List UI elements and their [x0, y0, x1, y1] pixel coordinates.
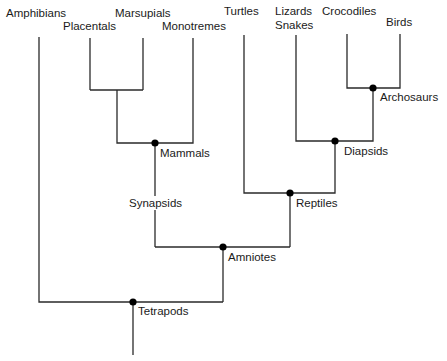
taxon-snakes: Snakes	[275, 19, 314, 31]
taxon-birds: Birds	[386, 16, 412, 28]
clade-diapsids: Diapsids	[344, 145, 388, 157]
node-diapsids	[331, 137, 338, 144]
clade-amniotes: Amniotes	[228, 251, 276, 263]
taxon-monotremes: Monotremes	[162, 20, 226, 32]
clade-archosaurs: Archosaurs	[380, 91, 438, 103]
clade-reptiles: Reptiles	[296, 197, 338, 209]
branch-lizards-snakes	[296, 35, 335, 141]
taxon-lizards: Lizards	[275, 5, 312, 17]
branch-archosaurs	[335, 88, 373, 141]
node-mammals	[151, 139, 158, 146]
node-amniotes	[219, 243, 226, 250]
branch-turtles	[244, 35, 290, 193]
clade-mammals: Mammals	[160, 147, 210, 159]
node-reptiles	[286, 189, 293, 196]
taxon-turtles: Turtles	[224, 5, 259, 17]
clade-synapsids: Synapsids	[129, 197, 182, 209]
node-tetrapods	[129, 298, 136, 305]
phylogenetic-tree: Amphibians Placentals Marsupials Monotre…	[0, 0, 447, 361]
branch-therians	[117, 90, 155, 143]
reptiles-subtree	[244, 34, 400, 247]
taxon-amphibians: Amphibians	[6, 7, 66, 19]
branch-amphibians	[39, 37, 223, 302]
branch-monotremes	[155, 38, 193, 143]
branch-crocodiles	[347, 34, 373, 88]
taxon-marsupials: Marsupials	[115, 7, 171, 19]
clade-tetrapods: Tetrapods	[138, 305, 189, 317]
mammals-subtree	[90, 38, 193, 143]
branch-birds	[373, 34, 400, 88]
taxon-crocodiles: Crocodiles	[322, 5, 377, 17]
taxon-placentals: Placentals	[63, 20, 116, 32]
node-archosaurs	[369, 84, 376, 91]
branch-diapsids	[290, 141, 335, 193]
